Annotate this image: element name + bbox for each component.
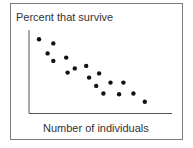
data-point-15 — [131, 91, 135, 95]
data-point-1 — [51, 41, 55, 45]
data-point-3 — [51, 59, 55, 63]
data-point-16 — [143, 100, 147, 104]
data-point-0 — [37, 37, 41, 41]
data-point-10 — [94, 84, 98, 88]
data-point-9 — [97, 71, 101, 75]
data-point-4 — [64, 55, 68, 59]
data-point-7 — [84, 64, 88, 68]
data-points — [37, 37, 147, 104]
scatter-plot — [0, 0, 193, 148]
data-point-2 — [45, 51, 49, 55]
data-point-14 — [117, 92, 121, 96]
data-point-13 — [121, 80, 125, 84]
data-point-5 — [65, 70, 69, 74]
data-point-8 — [87, 75, 91, 79]
data-point-12 — [108, 80, 112, 84]
data-point-11 — [101, 91, 105, 95]
data-point-6 — [73, 66, 77, 70]
